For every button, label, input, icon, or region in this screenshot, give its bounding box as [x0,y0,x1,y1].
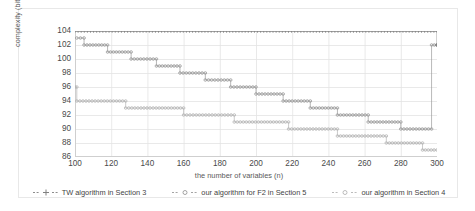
chart-legend: TW algorithm in Section 3our algorithm f… [19,185,459,199]
legend-item[interactable]: our algorithm for F2 in Section 5 [172,188,306,197]
y-tick-label: 90 [37,125,71,133]
x-tick-label: 260 [345,159,385,168]
series-tw-algorithm-section3 [75,31,437,47]
y-tick-label: 104 [37,27,71,35]
y-tick-label: 100 [37,55,71,63]
y-tick-label: 98 [37,69,71,77]
x-axis-title: the number of variables (n) [19,171,459,180]
legend-item-label: our algorithm in Section 4 [361,188,445,197]
legend-item[interactable]: our algorithm in Section 4 [332,188,445,197]
y-tick-label: 88 [37,139,71,147]
x-tick-label: 300 [417,159,457,168]
x-tick-label: 200 [236,159,276,168]
chart-container: complexity (bits) 8688909294969810010210… [18,8,458,198]
legend-item[interactable]: TW algorithm in Section 3 [33,188,147,197]
y-axis-title: complexity (bits) [13,0,22,47]
x-tick-label: 120 [91,159,131,168]
legend-item-label: TW algorithm in Section 3 [62,188,147,197]
plus-marker [33,188,59,197]
x-tick-label: 180 [200,159,240,168]
legend-item-label: our algorithm for F2 in Section 5 [201,188,306,197]
circle-marker [332,188,358,197]
x-tick-label: 140 [127,159,167,168]
plot-area [75,31,437,157]
x-tick-label: 220 [272,159,312,168]
y-tick-label: 96 [37,83,71,91]
x-axis-tick-labels: 100120140160180200220240260280300 [75,159,437,171]
y-axis-tick-labels: 86889092949698100102104 [35,31,71,157]
y-tick-label: 94 [37,97,71,105]
x-tick-label: 280 [381,159,421,168]
circle-marker [172,188,198,197]
chart-plot-svg [75,31,437,157]
x-tick-label: 240 [308,159,348,168]
x-tick-label: 100 [55,159,95,168]
y-tick-label: 102 [37,41,71,49]
x-tick-label: 160 [164,159,204,168]
y-tick-label: 92 [37,111,71,119]
